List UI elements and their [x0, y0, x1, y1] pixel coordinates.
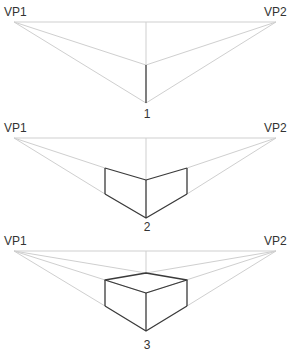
vp1-label: VP1: [4, 234, 27, 248]
panel-2: VP1 VP2 2: [4, 121, 287, 234]
top-face: [105, 273, 187, 293]
panel-3: VP1 VP2 3: [4, 234, 287, 352]
panel-1: VP1 VP2 1: [4, 5, 287, 121]
vp1-label: VP1: [4, 5, 27, 19]
step-label: 2: [144, 220, 151, 234]
vp1-guide-top: [14, 138, 105, 168]
vp2-guide-bottom: [187, 138, 276, 194]
vp2-label: VP2: [264, 121, 287, 135]
vp1-guide-bottom: [14, 22, 146, 103]
two-point-perspective-diagram: VP1 VP2 1 VP1 VP2 2 VP1 VP2: [0, 0, 298, 356]
vp2-guide-back: [146, 251, 276, 273]
vp1-guide-bottom: [14, 138, 105, 194]
vp2-guide-bottom: [187, 251, 276, 306]
vp2-label: VP2: [264, 5, 287, 19]
step-label: 3: [144, 338, 151, 352]
vp1-label: VP1: [4, 121, 27, 135]
vp2-label: VP2: [264, 234, 287, 248]
vp2-guide-bottom: [146, 22, 276, 103]
step-label: 1: [144, 107, 151, 121]
vp2-guide-top: [187, 138, 276, 168]
vp1-guide-bottom: [14, 251, 105, 306]
vp1-guide-top: [14, 22, 146, 65]
vp1-guide-back: [14, 251, 146, 273]
vp2-guide-top: [146, 22, 276, 65]
